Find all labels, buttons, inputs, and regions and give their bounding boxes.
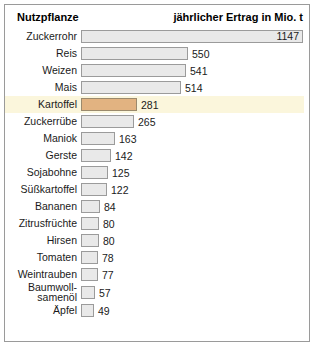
table-row: Zitrusfrüchte80 [5, 215, 304, 232]
bar-value: 78 [102, 251, 114, 264]
row-label: Tomaten [5, 249, 77, 266]
bar-value: 77 [102, 268, 114, 281]
table-row: Tomaten78 [5, 249, 304, 266]
table-row: Gerste142 [5, 147, 304, 164]
value-bar [81, 47, 188, 60]
table-row: Zuckerrohr1147 [5, 28, 304, 45]
value-bar [81, 166, 108, 179]
value-bar [81, 234, 99, 247]
bar-rows: Zuckerrohr1147Reis550Weizen541Mais514Kar… [5, 28, 304, 319]
row-label: Maniok [5, 130, 77, 147]
table-row: Weizen541 [5, 62, 304, 79]
bar-value: 142 [115, 149, 133, 162]
bar-value: 49 [98, 304, 110, 317]
bar-value: 84 [104, 200, 116, 213]
bar-value: 281 [141, 98, 159, 111]
crop-yield-bar-chart: Nutzpflanze jährlicher Ertrag in Mio. t … [0, 0, 315, 347]
value-bar [81, 115, 134, 128]
bar-value: 57 [99, 286, 111, 299]
chart-header: Nutzpflanze jährlicher Ertrag in Mio. t [5, 11, 304, 26]
row-label: Bananen [5, 198, 77, 215]
row-label: Zuckerrohr [5, 28, 77, 45]
table-row: Baumwoll-samenöl57 [5, 283, 304, 302]
table-row: Zuckerrübe265 [5, 113, 304, 130]
bar-value: 163 [119, 132, 137, 145]
value-bar [81, 251, 98, 264]
bar-value: 514 [185, 81, 203, 94]
table-row: Hirsen80 [5, 232, 304, 249]
value-bar [81, 81, 181, 94]
bar-value: 80 [103, 234, 115, 247]
bar-value: 122 [111, 183, 129, 196]
row-label: Hirsen [5, 232, 77, 249]
table-row: Äpfel49 [5, 302, 304, 319]
value-bar [81, 64, 186, 77]
bar-value: 125 [112, 166, 130, 179]
value-bar [81, 98, 137, 111]
row-label: Reis [5, 45, 77, 62]
row-label: Süßkartoffel [5, 181, 77, 198]
row-label: Äpfel [5, 302, 77, 319]
value-bar [81, 286, 95, 299]
table-row: Maniok163 [5, 130, 304, 147]
table-row: Reis550 [5, 45, 304, 62]
row-label: Weizen [5, 62, 77, 79]
header-label-crop: Nutzpflanze [17, 11, 79, 23]
value-bar [81, 200, 100, 213]
bar-value: 550 [192, 47, 210, 60]
bar-value: 265 [138, 115, 156, 128]
row-label: Baumwoll-samenöl [5, 283, 77, 302]
value-bar [81, 183, 107, 196]
value-bar [81, 149, 111, 162]
row-label-line2: samenöl [37, 293, 77, 303]
table-row: Mais514 [5, 79, 304, 96]
bar-value: 541 [190, 64, 208, 77]
row-label: Gerste [5, 147, 77, 164]
value-bar [81, 304, 94, 317]
value-bar [81, 268, 98, 281]
bar-value: 80 [103, 217, 115, 230]
row-label: Mais [5, 79, 77, 96]
table-row: Kartoffel281 [5, 96, 304, 113]
value-bar [81, 217, 99, 230]
header-label-yield: jährlicher Ertrag in Mio. t [173, 11, 303, 23]
bar-value: 1147 [81, 30, 303, 41]
row-label: Zuckerrübe [5, 113, 77, 130]
table-row: Süßkartoffel122 [5, 181, 304, 198]
table-row: Sojabohne125 [5, 164, 304, 181]
row-label: Kartoffel [5, 96, 77, 113]
value-bar [81, 132, 115, 145]
row-label: Sojabohne [5, 164, 77, 181]
table-row: Bananen84 [5, 198, 304, 215]
row-label: Zitrusfrüchte [5, 215, 77, 232]
